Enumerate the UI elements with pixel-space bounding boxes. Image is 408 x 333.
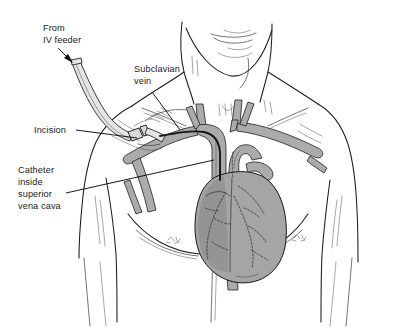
- incision-mark-3: [134, 119, 152, 126]
- flank-left: [106, 178, 117, 322]
- skin-hatch-1: [150, 118, 160, 122]
- clavicle-left: [142, 108, 186, 126]
- upper-lip-detail: [224, 30, 250, 33]
- neck-hatch-6: [264, 100, 266, 112]
- superior-vena-cava: [196, 124, 226, 180]
- anatomical-illustration: From IV feeder Subclavian vein Incision …: [0, 0, 408, 333]
- neck-hatch-1: [192, 56, 193, 74]
- label-subclavian-line2: vein: [134, 76, 151, 86]
- label-catheter-line3: superior: [18, 189, 52, 199]
- label-catheter-line1: Catheter: [18, 165, 54, 175]
- arm-hatch-left-2: [100, 200, 105, 246]
- flank-right: [321, 180, 330, 322]
- pectoral-left-fold2: [140, 238, 197, 259]
- trapezius-right: [268, 72, 318, 104]
- label-catheter-line4: vena cava: [18, 201, 62, 211]
- leader-subclavian: [152, 92, 180, 130]
- label-catheter-line2: inside: [18, 177, 43, 187]
- arm-left-lower: [84, 258, 90, 326]
- label-incision: Incision: [34, 125, 66, 135]
- clavicle-right-shadow: [267, 113, 306, 130]
- label-iv-feeder-line1: From: [43, 23, 65, 33]
- arm-right-crease: [330, 262, 336, 326]
- label-iv-feeder-line2: IV feeder: [43, 35, 81, 45]
- clavicle-right: [268, 108, 308, 126]
- arm-hatch-left-1: [95, 196, 100, 244]
- vein-branch-right-lower: [307, 156, 327, 173]
- arm-hatch-right-1: [337, 196, 342, 246]
- vein-branch-left-lower: [124, 180, 142, 214]
- neck-hatch-7: [270, 102, 272, 114]
- neck-hatch-3: [219, 104, 220, 116]
- chin-shadow: [218, 53, 252, 58]
- jaw-contour: [186, 28, 272, 76]
- arm-left-crease: [100, 262, 106, 326]
- mouth-line: [211, 33, 256, 37]
- neck-hatch-5: [231, 104, 232, 116]
- lower-lip: [214, 38, 252, 43]
- neck-left-contour: [181, 22, 194, 104]
- sternal-notch: [222, 106, 234, 111]
- nipple-left: [166, 237, 180, 243]
- arm-right-lower: [346, 258, 352, 326]
- iv-tubing: [72, 61, 133, 141]
- arm-hatch-right-2: [332, 200, 337, 248]
- clavicle-left-shadow: [144, 113, 187, 130]
- shoulder-right-arm: [318, 104, 358, 262]
- neck-hatch-2: [197, 60, 198, 76]
- chin-crease: [228, 46, 252, 50]
- jugular-branch-right: [240, 102, 254, 126]
- nipple-right: [292, 235, 306, 241]
- label-subclavian-line1: Subclavian: [134, 64, 180, 74]
